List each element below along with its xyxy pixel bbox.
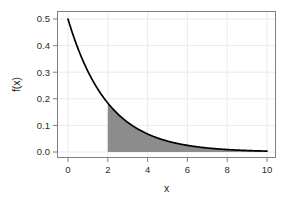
x-axis-title: x bbox=[164, 182, 170, 194]
y-axis-tick-label: 0.0 bbox=[37, 146, 50, 157]
y-axis: 0.00.10.20.30.40.5 bbox=[37, 13, 57, 157]
x-axis-tick-label: 8 bbox=[225, 164, 230, 175]
y-axis-title: f(x) bbox=[10, 77, 22, 92]
y-axis-tick-label: 0.3 bbox=[37, 67, 50, 78]
x-axis-tick-label: 2 bbox=[105, 164, 110, 175]
y-axis-tick-label: 0.2 bbox=[37, 93, 50, 104]
x-axis-tick-label: 0 bbox=[65, 164, 70, 175]
plot-panel-background bbox=[57, 11, 276, 158]
y-axis-tick-label: 0.4 bbox=[37, 40, 50, 51]
x-axis-tick-label: 4 bbox=[145, 164, 150, 175]
x-axis-tick-label: 6 bbox=[185, 164, 190, 175]
exponential-density-plot: 02468100.00.10.20.30.40.5xf(x) bbox=[0, 0, 286, 204]
x-axis: 0246810 bbox=[65, 158, 272, 175]
y-axis-tick-label: 0.1 bbox=[37, 120, 50, 131]
x-axis-tick-label: 10 bbox=[262, 164, 273, 175]
chart-figure: 02468100.00.10.20.30.40.5xf(x) bbox=[0, 0, 286, 204]
y-axis-tick-label: 0.5 bbox=[37, 13, 50, 24]
